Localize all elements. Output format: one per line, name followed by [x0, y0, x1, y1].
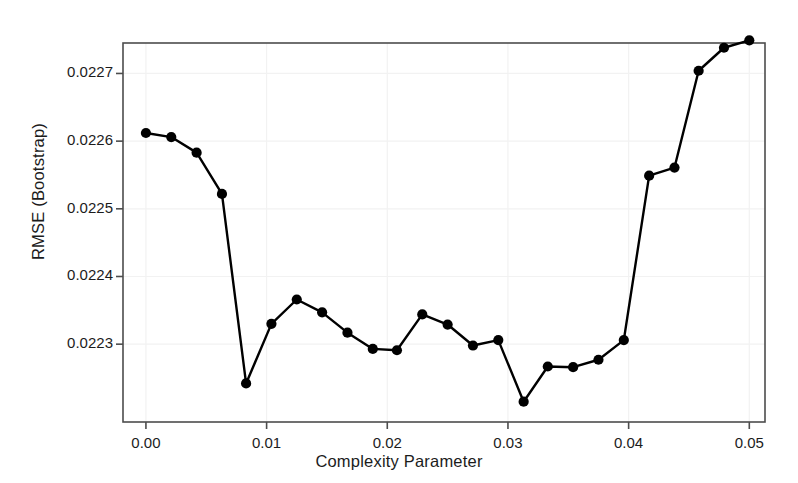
data-point: [719, 43, 729, 53]
y-tick-label: 0.0224: [41, 266, 113, 283]
y-tick-label: 0.0225: [41, 199, 113, 216]
y-tick-label: 0.0226: [41, 131, 113, 148]
data-point-markers: [141, 35, 755, 407]
data-point: [217, 189, 227, 199]
data-point: [568, 362, 578, 372]
data-point: [669, 162, 679, 172]
data-point: [292, 294, 302, 304]
data-point: [493, 335, 503, 345]
data-point: [619, 335, 629, 345]
data-point: [694, 66, 704, 76]
x-tick-label: 0.01: [237, 434, 297, 451]
plot-canvas: [0, 0, 798, 483]
data-point: [317, 307, 327, 317]
data-point: [468, 340, 478, 350]
data-line: [146, 40, 749, 401]
data-point: [368, 344, 378, 354]
x-tick-label: 0.00: [116, 434, 176, 451]
data-point: [192, 148, 202, 158]
data-point: [141, 128, 151, 138]
data-point: [266, 319, 276, 329]
x-tick-label: 0.02: [357, 434, 417, 451]
y-tick-label: 0.0223: [41, 334, 113, 351]
axis-ticks: [116, 73, 749, 429]
data-point: [543, 361, 553, 371]
plot-frame: [123, 43, 765, 422]
data-point: [166, 132, 176, 142]
x-tick-label: 0.05: [719, 434, 779, 451]
data-point: [644, 171, 654, 181]
gridlines: [123, 43, 765, 422]
data-point: [241, 378, 251, 388]
x-axis-title: Complexity Parameter: [0, 452, 798, 471]
data-point: [342, 328, 352, 338]
x-tick-label: 0.03: [478, 434, 538, 451]
y-axis-title: RMSE (Bootstrap): [29, 92, 48, 292]
data-point: [593, 355, 603, 365]
rmse-vs-complexity-chart: RMSE (Bootstrap) Complexity Parameter 0.…: [0, 0, 798, 483]
data-point: [417, 309, 427, 319]
data-point: [519, 397, 529, 407]
x-tick-label: 0.04: [599, 434, 659, 451]
data-point: [744, 35, 754, 45]
data-point: [443, 319, 453, 329]
y-tick-label: 0.0227: [41, 63, 113, 80]
data-point: [392, 345, 402, 355]
